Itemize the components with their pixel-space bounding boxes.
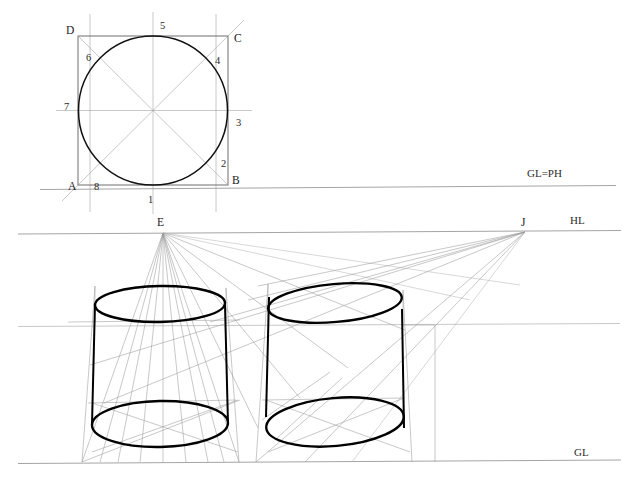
perspective-construction-figure: A B C D 1 2 3 4 5 6 7 8 (0, 0, 635, 485)
ray-J-2 (248, 232, 525, 300)
right-cylinder (264, 278, 406, 452)
vanishing-point-label-E: E (157, 216, 164, 228)
left-cylinder-bottom-ellipse (92, 400, 229, 448)
right-cylinder-left-silhouette (266, 297, 269, 417)
hl-line (18, 231, 621, 235)
gl-line (18, 460, 621, 464)
plan-label-1: 1 (148, 194, 153, 205)
plan-label-2: 2 (221, 158, 226, 169)
ray-J-3 (210, 232, 525, 322)
reference-label-hl: HL (570, 214, 585, 226)
right-ground-right-edge (403, 290, 412, 462)
right-cylinder-construction (256, 284, 435, 462)
plan-label-A: A (68, 180, 77, 192)
ray-J-6 (256, 232, 525, 462)
ray-E-3 (118, 233, 163, 462)
left-cylinder-top-ellipse (95, 285, 226, 323)
ray-E-2 (100, 233, 163, 462)
plan-label-3: 3 (236, 117, 241, 128)
right-inner-slash-a (262, 372, 330, 420)
ray-E-8 (163, 233, 224, 462)
vanishing-point-label-J: J (521, 216, 526, 228)
technical-drawing-canvas: A B C D 1 2 3 4 5 6 7 8 (0, 0, 635, 485)
reference-label-gl: GL (574, 446, 589, 458)
left-cylinder (92, 285, 229, 448)
ray-J-5 (104, 232, 525, 403)
plan-label-B: B (232, 174, 240, 186)
reference-lines-group (18, 186, 621, 464)
ray-E-13 (163, 233, 405, 330)
ray-J-8 (352, 232, 525, 462)
ray-fan-from-J (90, 232, 525, 462)
ray-J-4 (90, 232, 525, 365)
plan-label-7: 7 (64, 101, 69, 112)
gl-ph-line (40, 186, 616, 190)
right-cylinder-top-ellipse (267, 278, 404, 328)
ray-J-7 (305, 232, 525, 462)
plan-label-6: 6 (86, 52, 91, 63)
plan-label-4: 4 (215, 55, 221, 66)
plan-label-C: C (234, 32, 242, 44)
plan-view-group: A B C D 1 2 3 4 5 6 7 8 (56, 12, 252, 214)
plan-vertical-guides (90, 12, 216, 214)
plan-label-5: 5 (160, 20, 165, 31)
plan-label-D: D (66, 24, 74, 36)
ray-J-1 (258, 232, 525, 286)
plan-label-8: 8 (94, 181, 99, 192)
reference-label-gl-ph: GL=PH (527, 167, 562, 179)
